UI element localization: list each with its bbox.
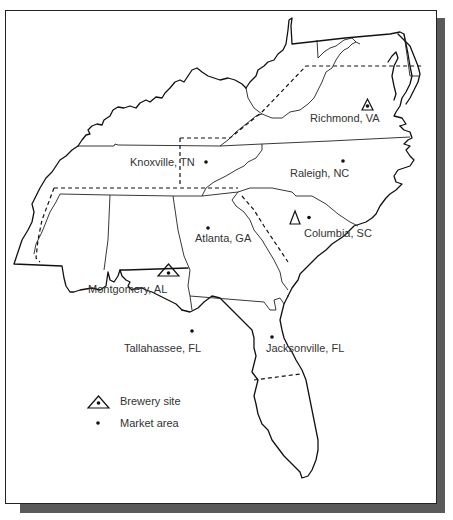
state-borders [34,34,420,310]
market-marker-jacksonville[interactable] [270,335,274,339]
city-label-columbia: Columbia, SC [304,228,372,239]
city-label-richmond: Richmond, VA [310,113,380,124]
brewery-marker-montgomery[interactable] [158,264,179,276]
market-marker-knoxville[interactable] [204,160,208,164]
market-marker-atlanta[interactable] [206,226,210,230]
market-legend-icon [96,421,100,425]
city-label-montgomery: Montgomery, AL [88,284,167,295]
city-label-knoxville: Knoxville, TN [130,157,195,168]
legend-brewery-label: Brewery site [120,396,181,407]
city-label-tallahassee: Tallahassee, FL [124,343,201,354]
brewery-marker-columbia[interactable] [290,211,311,224]
market-marker-tallahassee[interactable] [190,329,194,333]
legend-symbols [88,396,109,425]
city-label-atlanta: Atlanta, GA [195,233,251,244]
legend-market-label: Market area [120,418,179,429]
market-marker-raleigh[interactable] [341,159,345,163]
region-outline [14,18,420,478]
city-label-raleigh: Raleigh, NC [290,168,349,179]
city-label-jacksonville: Jacksonville, FL [266,343,344,354]
brewery-marker-richmond[interactable] [362,99,373,110]
map-svg [0,0,453,520]
